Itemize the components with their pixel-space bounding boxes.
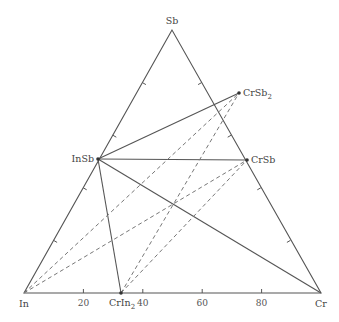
point-crsb [245,158,249,162]
phase-label-crsb: CrSb [251,154,275,165]
phase-label-insb: InSb [72,153,94,164]
point-crin2 [119,291,123,295]
tie-line-insb-crin2 [98,159,121,293]
tie-line-in-crsb [24,160,247,293]
vertex-label-in: In [19,298,29,309]
tick-label-60: 60 [196,298,208,308]
triangle-outline [24,30,321,293]
ternary-diagram: Sb In Cr CrSb2 InSb CrSb CrIn2 20 40 60 … [0,0,339,322]
tick-label-80: 80 [256,298,268,308]
dashed-tie-lines [24,93,247,293]
tie-line-insb-cr [98,159,321,293]
tick-label-20: 20 [78,298,90,308]
tie-line-crin2-crsb [121,160,247,293]
left-edge-ticks [54,83,146,243]
vertex-label-cr: Cr [315,298,327,309]
tie-line-crin2-crsb2 [121,93,239,293]
phase-points [96,91,249,295]
tie-line-in-crsb2 [24,93,239,293]
tick-label-40: 40 [137,298,149,308]
point-insb [96,157,100,161]
right-edge-ticks [198,83,290,243]
phase-label-crsb2: CrSb2 [243,87,272,101]
tie-line-insb-crsb2 [98,93,239,159]
base-ticks [83,289,261,293]
point-crsb2 [237,91,241,95]
phase-label-crin2: CrIn2 [109,297,135,311]
tie-line-insb-crsb [98,159,247,160]
vertex-label-sb: Sb [166,15,179,26]
solid-tie-lines [98,93,321,293]
